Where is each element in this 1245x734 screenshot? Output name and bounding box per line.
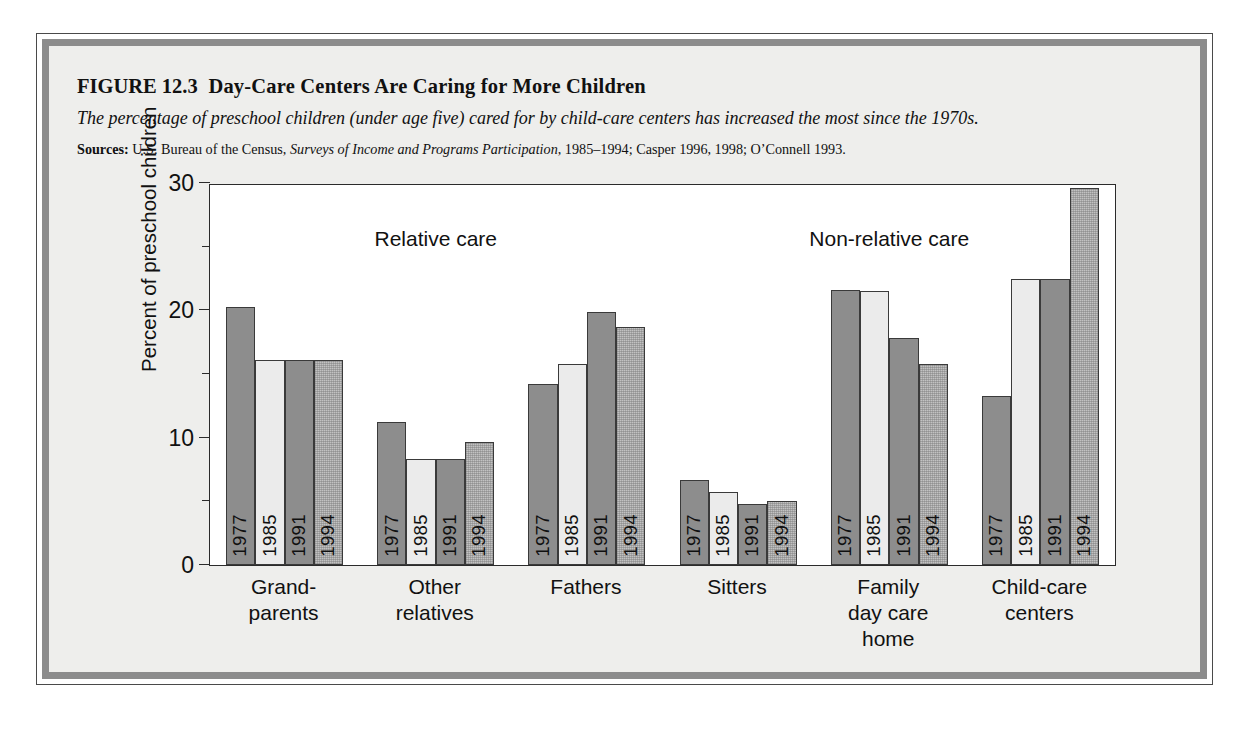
- bar-year-label: 1985: [563, 514, 582, 557]
- bar-other-relatives-1991: 1991: [436, 459, 465, 565]
- figure-page: FIGURE 12.3 Day-Care Centers Are Caring …: [0, 0, 1245, 734]
- y-tick-5: [202, 500, 210, 501]
- bar-year-label: 1977: [836, 514, 855, 557]
- y-tick-25: [202, 246, 210, 247]
- figure-gray-band: FIGURE 12.3 Day-Care Centers Are Caring …: [42, 39, 1207, 679]
- y-tick-label-30: 30: [168, 170, 194, 197]
- bar-year-label: 1985: [1017, 514, 1036, 557]
- bar-child-care-centers-1985: 1985: [1011, 279, 1040, 566]
- section-header-relative-care: Relative care: [374, 227, 497, 251]
- bar-child-care-centers-1994: 1994: [1070, 188, 1099, 565]
- bar-year-label: 1977: [987, 514, 1006, 557]
- bar-year-label: 1977: [534, 514, 553, 557]
- bar-family-day care-home-1985: 1985: [860, 291, 889, 565]
- bar-grand--parents-1994: 1994: [314, 360, 343, 565]
- bar-family-day care-home-1991: 1991: [889, 338, 918, 565]
- bar-sitters-1985: 1985: [709, 492, 738, 565]
- y-tick-30: [199, 182, 210, 183]
- y-tick-0: [199, 564, 210, 565]
- bar-year-label: 1985: [714, 514, 733, 557]
- category-label-child-care-centers: Child-care centers: [992, 574, 1088, 626]
- bar-fathers-1977: 1977: [528, 384, 557, 565]
- bar-year-label: 1977: [231, 514, 250, 557]
- bar-sitters-1977: 1977: [680, 480, 709, 565]
- bar-fathers-1991: 1991: [587, 312, 616, 565]
- bar-grand--parents-1991: 1991: [285, 360, 314, 565]
- bar-year-label: 1977: [383, 514, 402, 557]
- bar-sitters-1994: 1994: [767, 501, 796, 565]
- y-axis-title: Percent of preschool children: [137, 106, 161, 372]
- bar-other-relatives-1985: 1985: [406, 459, 435, 565]
- y-tick-label-10: 10: [168, 424, 194, 451]
- bar-grand--parents-1977: 1977: [226, 307, 255, 565]
- bar-family-day care-home-1977: 1977: [831, 290, 860, 565]
- bar-fathers-1985: 1985: [558, 364, 587, 565]
- figure-outer-border: FIGURE 12.3 Day-Care Centers Are Caring …: [36, 33, 1213, 685]
- y-tick-label-20: 20: [168, 297, 194, 324]
- y-tick-20: [199, 309, 210, 310]
- bar-year-label: 1985: [865, 514, 884, 557]
- bar-family-day care-home-1994: 1994: [919, 364, 948, 565]
- bar-year-label: 1994: [924, 514, 943, 557]
- bar-year-label: 1991: [895, 514, 914, 557]
- bar-sitters-1991: 1991: [738, 504, 767, 565]
- bar-year-label: 1994: [622, 514, 641, 557]
- bar-year-label: 1991: [1046, 514, 1065, 557]
- bar-year-label: 1994: [773, 514, 792, 557]
- y-tick-label-0: 0: [181, 552, 194, 579]
- bar-year-label: 1991: [592, 514, 611, 557]
- category-label-sitters: Sitters: [707, 574, 767, 600]
- category-label-family-day care-home: Family day care home: [848, 574, 929, 652]
- y-tick-15: [202, 373, 210, 374]
- bar-child-care-centers-1991: 1991: [1040, 279, 1069, 566]
- category-label-other-relatives: Other relatives: [396, 574, 474, 626]
- bar-child-care-centers-1977: 1977: [982, 396, 1011, 565]
- bar-year-label: 1985: [412, 514, 431, 557]
- bar-year-label: 1991: [743, 514, 762, 557]
- bar-year-label: 1977: [685, 514, 704, 557]
- bar-chart: Percent of preschool children 0102030197…: [49, 46, 1200, 672]
- category-label-fathers: Fathers: [550, 574, 621, 600]
- bar-year-label: 1994: [470, 514, 489, 557]
- figure-content: FIGURE 12.3 Day-Care Centers Are Caring …: [49, 46, 1200, 672]
- bar-year-label: 1994: [319, 514, 338, 557]
- plot-frame: 0102030197719851991199419771985199119941…: [209, 184, 1116, 566]
- y-tick-10: [199, 437, 210, 438]
- bar-year-label: 1991: [290, 514, 309, 557]
- bar-other-relatives-1977: 1977: [377, 422, 406, 565]
- bar-other-relatives-1994: 1994: [465, 442, 494, 566]
- category-label-grand--parents: Grand- parents: [249, 574, 319, 626]
- bar-year-label: 1991: [441, 514, 460, 557]
- bar-year-label: 1994: [1075, 514, 1094, 557]
- bar-grand--parents-1985: 1985: [255, 360, 284, 565]
- bar-fathers-1994: 1994: [616, 327, 645, 565]
- section-header-non-relative-care: Non-relative care: [809, 227, 969, 251]
- plot-area: 0102030197719851991199419771985199119941…: [210, 185, 1115, 565]
- bar-year-label: 1985: [261, 514, 280, 557]
